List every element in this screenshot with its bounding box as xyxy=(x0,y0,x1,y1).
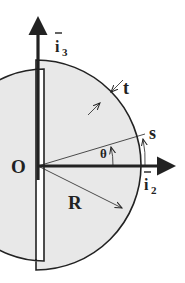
s-arc xyxy=(143,139,145,166)
label-origin: O xyxy=(11,156,26,177)
label-i2: i xyxy=(144,176,149,193)
label-arc-length: s xyxy=(149,123,156,143)
semicircular-section-diagram: i 3 i 2 O R t s θ xyxy=(0,0,185,283)
label-i3-sub: 3 xyxy=(62,46,68,58)
thickness-arrow-outer xyxy=(111,80,123,92)
label-i3: i xyxy=(55,38,60,55)
label-theta: θ xyxy=(100,146,107,161)
diagram-stage: i 3 i 2 O R t s θ xyxy=(0,0,185,283)
label-radius: R xyxy=(68,192,82,213)
label-i2-sub: 2 xyxy=(151,184,157,196)
label-thickness: t xyxy=(123,78,129,98)
